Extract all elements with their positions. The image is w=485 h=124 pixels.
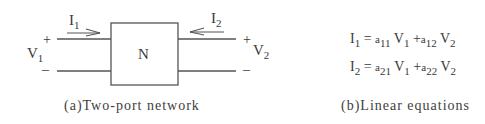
eq-coef-1-sub: 21: [380, 65, 391, 77]
eq-lhs-sub: 2: [355, 65, 361, 77]
eq-lhs: I: [350, 31, 355, 46]
eq-var-2-sub: 2: [450, 37, 456, 49]
eq-plus: +: [413, 31, 421, 46]
eq-var-2: V: [440, 31, 450, 46]
left-plus-sign: +: [43, 32, 51, 48]
caption-two-port-network: (a)Two-port network: [64, 98, 200, 114]
eq-var-1-sub: 1: [404, 37, 410, 49]
current-label-i1: I1: [69, 12, 80, 29]
voltage-symbol: V: [253, 42, 264, 58]
current-subscript: 2: [216, 17, 222, 29]
current-arrow-i1-icon: [67, 29, 100, 36]
left-minus-sign: –: [42, 62, 49, 78]
voltage-label-v2: V2: [253, 42, 269, 59]
eq-equals: =: [364, 31, 372, 46]
eq-coef-2-sub: 12: [426, 37, 437, 49]
voltage-symbol: V: [27, 45, 38, 61]
equation-line-1: I1 = a11 V1 +a12 V2: [350, 31, 456, 47]
equation-line-2: I2 = a21 V1 +a22 V2: [350, 59, 456, 75]
eq-coef-1-sub: 11: [380, 37, 391, 49]
eq-lhs-sub: 1: [355, 37, 361, 49]
eq-var-2: V: [440, 59, 450, 74]
eq-lhs: I: [350, 59, 355, 74]
right-plus-sign: +: [243, 32, 251, 48]
caption-linear-equations: (b)Linear equations: [341, 98, 470, 114]
eq-var-1: V: [394, 31, 404, 46]
eq-var-1-sub: 1: [404, 65, 410, 77]
eq-var-1: V: [394, 59, 404, 74]
eq-equals: =: [364, 59, 372, 74]
right-minus-sign: –: [243, 62, 250, 78]
eq-coef-2: a: [421, 33, 426, 45]
eq-var-2-sub: 2: [451, 65, 457, 77]
network-label: N: [138, 46, 149, 63]
eq-coef-2-sub: 22: [426, 65, 437, 77]
current-label-i2: I2: [211, 10, 222, 27]
voltage-label-v1: V1: [27, 45, 43, 62]
voltage-subscript: 2: [264, 49, 270, 61]
current-arrow-i2-icon: [190, 28, 224, 35]
current-subscript: 1: [74, 19, 80, 31]
